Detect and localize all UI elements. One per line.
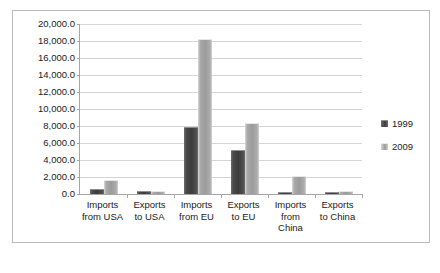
x-axis-category-line: from USA (79, 211, 126, 223)
y-axis-tick-label: 10,000.0 (13, 104, 75, 114)
x-axis-category-label: Importsfrom EU (173, 199, 220, 222)
legend-item-1999[interactable]: 1999 (381, 115, 437, 132)
bar-group (127, 24, 174, 194)
x-axis-category-line: China (267, 222, 314, 234)
x-axis: Importsfrom USAExportsto USAImportsfrom … (79, 199, 362, 243)
y-axis-tick-label: 14,000.0 (13, 70, 75, 80)
bar-1999-exports-to-usa[interactable] (137, 191, 151, 194)
x-axis-category-label: Exportsto EU (220, 199, 267, 222)
x-axis-tick (127, 194, 128, 198)
x-axis-category-line: Exports (314, 199, 361, 211)
y-axis-tick-label: 18,000.0 (13, 36, 75, 46)
plot-area (79, 24, 362, 195)
x-axis-category-line: Exports (126, 199, 173, 211)
x-axis-category-line: Exports (220, 199, 267, 211)
legend-swatch-icon (381, 120, 388, 127)
y-axis-tick (77, 194, 80, 195)
y-axis-tick-label: 4,000.0 (13, 155, 75, 165)
bar-group (80, 24, 127, 194)
x-axis-category-line: Imports (173, 199, 220, 211)
y-axis-tick-label: 0.0 (13, 189, 75, 199)
x-axis-category-line: to USA (126, 211, 173, 223)
chart-frame: 20,000.018,000.016,000.014,000.012,000.0… (12, 10, 430, 243)
x-axis-tick (268, 194, 269, 198)
legend-label: 2009 (392, 142, 413, 152)
x-axis-category-line: from EU (173, 211, 220, 223)
x-axis-tick (221, 194, 222, 198)
y-axis-tick-label: 2,000.0 (13, 172, 75, 182)
bar-2009-imports-from-eu[interactable] (198, 39, 212, 194)
x-axis-category-line: to EU (220, 211, 267, 223)
bar-2009-exports-to-china[interactable] (339, 191, 353, 194)
legend-label: 1999 (392, 119, 413, 129)
x-axis-category-label: ImportsfromChina (267, 199, 314, 234)
x-axis-tick (315, 194, 316, 198)
x-axis-category-label: Exportsto USA (126, 199, 173, 222)
bar-1999-exports-to-china[interactable] (325, 192, 339, 194)
bar-1999-imports-from-eu[interactable] (184, 127, 198, 194)
x-axis-category-line: Imports (79, 199, 126, 211)
x-axis-category-label: Exportsto China (314, 199, 361, 222)
bar-group (221, 24, 268, 194)
x-axis-category-line: from (267, 211, 314, 223)
bar-2009-imports-from-china[interactable] (292, 176, 306, 194)
y-axis-tick-label: 6,000.0 (13, 138, 75, 148)
y-axis: 20,000.018,000.016,000.014,000.012,000.0… (13, 24, 75, 194)
y-axis-tick-label: 12,000.0 (13, 87, 75, 97)
bar-group (268, 24, 315, 194)
legend-swatch-icon (381, 143, 388, 150)
chart-legend: 19992009 (381, 115, 437, 161)
bar-group (174, 24, 221, 194)
x-axis-category-line: Imports (267, 199, 314, 211)
x-axis-category-label: Importsfrom USA (79, 199, 126, 222)
legend-item-2009[interactable]: 2009 (381, 138, 437, 155)
y-axis-tick-label: 8,000.0 (13, 121, 75, 131)
bar-2009-exports-to-eu[interactable] (245, 123, 259, 194)
x-axis-category-line: to China (314, 211, 361, 223)
bar-1999-imports-from-usa[interactable] (90, 189, 104, 194)
x-axis-tick (362, 194, 363, 198)
bar-1999-imports-from-china[interactable] (278, 192, 292, 194)
y-axis-tick-label: 16,000.0 (13, 53, 75, 63)
bar-1999-exports-to-eu[interactable] (231, 150, 245, 194)
bar-2009-imports-from-usa[interactable] (104, 180, 118, 194)
bar-2009-exports-to-usa[interactable] (151, 191, 165, 194)
bar-group (315, 24, 362, 194)
x-axis-tick (174, 194, 175, 198)
bars-layer (80, 24, 362, 194)
y-axis-tick-label: 20,000.0 (13, 19, 75, 29)
